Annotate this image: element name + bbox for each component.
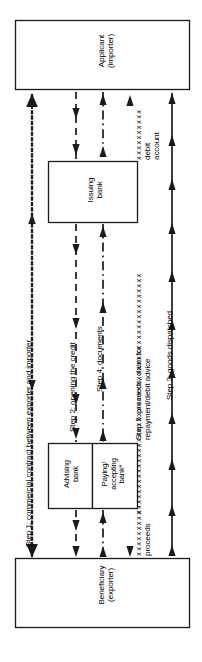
node-beneficiary-label: Beneficiary (exporter)	[97, 549, 115, 621]
node-issuing-bank-label-line1: Issuing	[86, 168, 95, 212]
flow-step1-label: Step 1: commercial contract between expo…	[24, 340, 33, 547]
node-issuing-bank-label: Issuing bank	[86, 168, 104, 212]
annotation-debit-account-line2: account	[152, 100, 161, 160]
node-advising-bank-label: Advising bank	[63, 445, 80, 503]
flow-step2-label: Step 2: opening the credit	[68, 342, 77, 432]
node-applicant-label: Applicant (importer)	[97, 19, 115, 83]
node-applicant-label-line1: Applicant	[97, 19, 106, 83]
node-beneficiary-label-line2: (exporter)	[106, 549, 115, 621]
annotation-debit-account: debit account	[143, 100, 161, 160]
node-paying-bank-label-line3: bank*	[118, 445, 127, 503]
node-advising-bank-label-line2: bank	[72, 445, 81, 503]
flow-step5-label-line2: repayment/debit advice	[143, 320, 152, 440]
annotation-proceeds: proceeds	[143, 524, 152, 557]
flow-step5-xchain-top: xxxxxxxxxx	[134, 109, 143, 160]
diagram-canvas: Applicant (importer) Issuing bank Advisi…	[0, 0, 202, 662]
node-beneficiary-label-line1: Beneficiary	[97, 549, 106, 621]
node-issuing-bank-label-line2: bank	[95, 168, 104, 212]
node-applicant-label-line2: (importer)	[106, 19, 115, 83]
flow-step5-xchain-bottom: xxxxxxxxx	[134, 510, 143, 556]
flow-step4-label: Step 4: documents	[95, 326, 104, 392]
flow-step5-xchain-main: xxxxxxxxxxxxxxxxxxxxxxxxxxxxxxxxxxxxxxxx…	[134, 272, 143, 514]
flow-step3-label: Step 3: goods dispatched	[165, 311, 174, 400]
node-paying-bank-label: Paying/ accepting bank*	[101, 445, 127, 503]
annotation-debit-account-line1: debit	[143, 100, 152, 160]
